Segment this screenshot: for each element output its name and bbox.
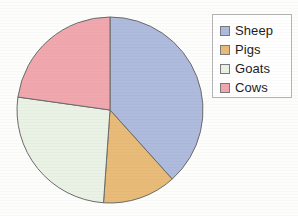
legend-label-pigs: Pigs [235, 43, 261, 56]
pie-chart-figure: Sheep Pigs Goats Cows [0, 0, 298, 216]
pie-slice-group [17, 17, 203, 203]
legend-swatch-pigs [220, 45, 230, 55]
legend-swatch-sheep [220, 26, 230, 36]
legend-label-goats: Goats [235, 62, 270, 75]
legend-box: Sheep Pigs Goats Cows [212, 14, 292, 98]
legend-item-sheep[interactable]: Sheep [220, 21, 291, 40]
pie-plot-area [0, 0, 210, 216]
legend-label-sheep: Sheep [235, 24, 273, 37]
legend-item-cows[interactable]: Cows [220, 78, 291, 97]
pie-svg [0, 0, 210, 216]
legend-swatch-cows [220, 83, 230, 93]
legend-label-cows: Cows [235, 81, 268, 94]
legend-swatch-goats [220, 64, 230, 74]
legend-item-goats[interactable]: Goats [220, 59, 291, 78]
pie-slice-goats[interactable] [17, 97, 110, 203]
legend-item-pigs[interactable]: Pigs [220, 40, 291, 59]
pie-slice-cows[interactable] [18, 17, 110, 110]
